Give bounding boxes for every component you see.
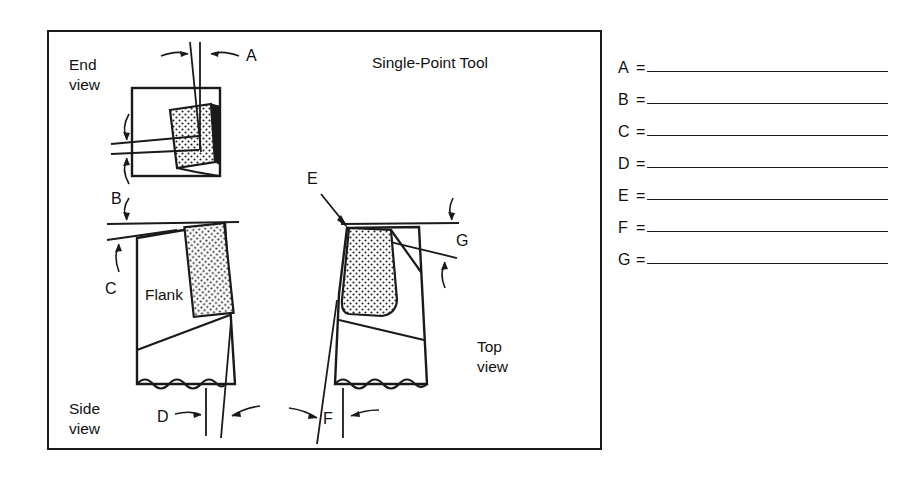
end-view-group: A B bbox=[111, 42, 257, 207]
answer-blank-d[interactable] bbox=[647, 167, 888, 168]
side-view-flank-line bbox=[137, 315, 230, 350]
answer-blank-f[interactable] bbox=[647, 231, 888, 232]
diagram-frame: Single-Point Tool End view bbox=[47, 30, 602, 450]
top-view-flank-line bbox=[339, 320, 424, 340]
answer-letter-c: C bbox=[618, 124, 632, 140]
answer-blank-c[interactable] bbox=[647, 135, 888, 136]
answer-equals-b: = bbox=[636, 92, 645, 108]
callout-b-arrowhead-upper bbox=[123, 132, 130, 140]
answer-row-b[interactable]: B = bbox=[618, 89, 888, 111]
callout-letter-b: B bbox=[111, 190, 122, 207]
answer-letter-b: B bbox=[618, 92, 632, 108]
answer-row-f[interactable]: F = bbox=[618, 217, 888, 239]
top-view-insert bbox=[342, 228, 397, 316]
callout-f-arrowhead-right bbox=[351, 411, 360, 417]
end-view-label-line1: End bbox=[69, 56, 97, 73]
callout-letter-c: C bbox=[105, 280, 117, 297]
callout-letter-a: A bbox=[246, 47, 257, 64]
answer-equals-e: = bbox=[636, 188, 645, 204]
callout-b-arrowhead-lower bbox=[123, 158, 130, 166]
answer-equals-d: = bbox=[636, 156, 645, 172]
callout-c-arrowhead-lower bbox=[115, 244, 122, 252]
callout-a-arrowhead-left bbox=[180, 51, 188, 57]
side-view-label-line1: Side bbox=[69, 400, 100, 417]
answer-equals-g: = bbox=[636, 252, 645, 268]
callout-a-arrowhead-right bbox=[211, 51, 219, 57]
figure-title: Single-Point Tool bbox=[372, 54, 488, 71]
top-view-horizontal-datum bbox=[341, 223, 459, 224]
answer-equals-a: = bbox=[636, 60, 645, 76]
answer-row-a[interactable]: A = bbox=[618, 57, 888, 79]
side-view-d-relief-line bbox=[221, 322, 231, 438]
callout-g-arrowhead-upper bbox=[448, 212, 455, 220]
end-view-label-line2: view bbox=[69, 76, 101, 93]
answer-letter-e: E bbox=[618, 188, 632, 204]
answer-blank-g[interactable] bbox=[647, 263, 888, 264]
answer-key-list: A = B = C = D = E = F = bbox=[618, 57, 888, 277]
answer-row-g[interactable]: G = bbox=[618, 249, 888, 271]
answer-row-e[interactable]: E = bbox=[618, 185, 888, 207]
side-view-group: C Flank D S bbox=[69, 198, 260, 438]
top-view-label-line2: view bbox=[477, 358, 509, 375]
callout-letter-f: F bbox=[323, 410, 333, 427]
top-view-label-line1: Top bbox=[477, 338, 502, 355]
answer-equals-c: = bbox=[636, 124, 645, 140]
callout-letter-g: G bbox=[456, 232, 468, 249]
answer-letter-f: F bbox=[618, 220, 632, 236]
callout-letter-e: E bbox=[307, 170, 318, 187]
answer-row-c[interactable]: C = bbox=[618, 121, 888, 143]
answer-letter-a: A bbox=[618, 60, 632, 76]
top-view-insert-edge bbox=[391, 230, 421, 272]
side-view-rake-line bbox=[107, 230, 177, 240]
answer-blank-b[interactable] bbox=[647, 103, 888, 104]
answer-blank-e[interactable] bbox=[647, 199, 888, 200]
single-point-tool-drawing: Single-Point Tool End view bbox=[49, 32, 604, 452]
callout-c-arrowhead-upper bbox=[123, 212, 130, 220]
side-view-insert bbox=[184, 223, 233, 317]
answer-row-d[interactable]: D = bbox=[618, 153, 888, 175]
top-view-group: G E bbox=[289, 170, 509, 444]
callout-d-arrowhead-right bbox=[232, 411, 241, 417]
answer-blank-a[interactable] bbox=[647, 71, 888, 72]
flank-label: Flank bbox=[145, 286, 183, 303]
callout-g-arrowhead-lower bbox=[441, 262, 448, 270]
callout-f-arrowhead-left bbox=[308, 413, 317, 419]
diagram-page: Single-Point Tool End view bbox=[0, 0, 909, 482]
answer-letter-g: G bbox=[618, 252, 632, 268]
side-view-label-line2: view bbox=[69, 420, 101, 437]
answer-letter-d: D bbox=[618, 156, 632, 172]
callout-letter-d: D bbox=[157, 408, 169, 425]
answer-equals-f: = bbox=[636, 220, 645, 236]
